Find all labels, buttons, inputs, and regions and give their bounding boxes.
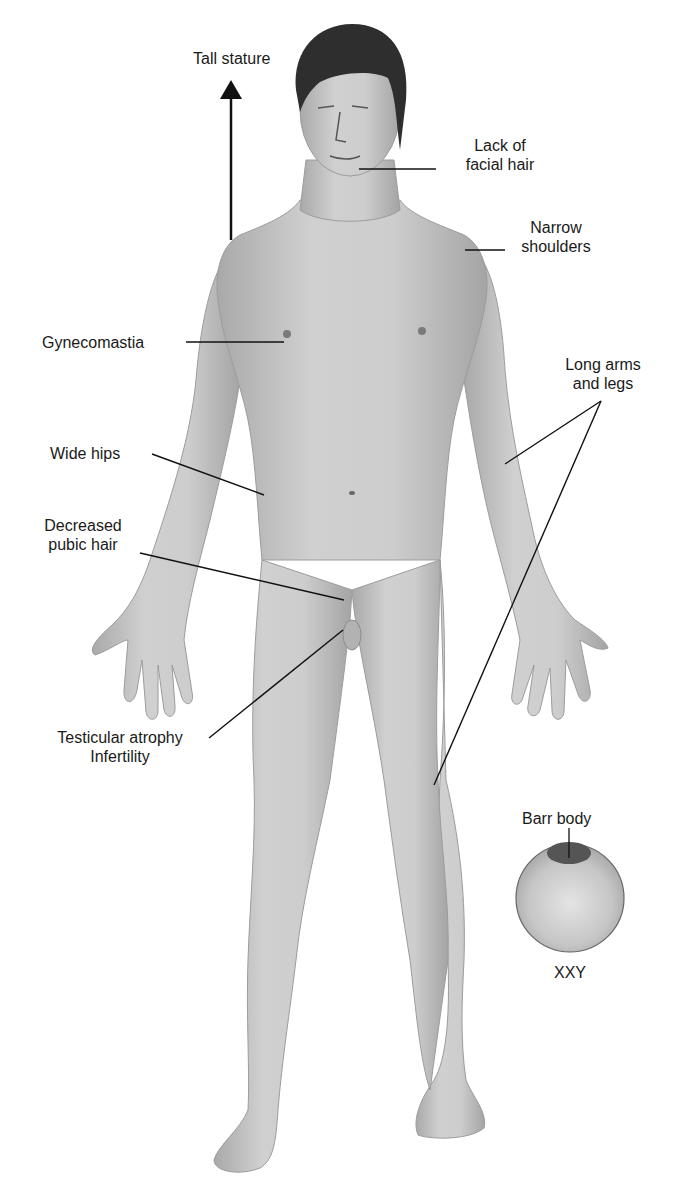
inner-right-leg bbox=[352, 560, 448, 1090]
torso bbox=[217, 200, 487, 560]
label-decreased-pubic-hair: Decreased pubic hair bbox=[28, 516, 138, 554]
label-lack-facial-hair: Lack of facial hair bbox=[450, 136, 550, 174]
label-narrow-shoulders-line2: shoulders bbox=[506, 237, 606, 256]
genitals bbox=[343, 620, 361, 650]
body-illustration bbox=[0, 0, 676, 1181]
label-wide-hips: Wide hips bbox=[50, 444, 120, 463]
label-lack-facial-hair-line2: facial hair bbox=[450, 155, 550, 174]
label-narrow-shoulders: Narrow shoulders bbox=[506, 218, 606, 256]
label-karyotype-xxy: XXY bbox=[530, 963, 610, 982]
label-long-arms-legs-line1: Long arms bbox=[548, 355, 658, 374]
label-pubic-hair-line1: Decreased bbox=[28, 516, 138, 535]
label-pubic-hair-line2: pubic hair bbox=[28, 535, 138, 554]
label-testicular-line2: Infertility bbox=[30, 747, 210, 766]
label-gynecomastia: Gynecomastia bbox=[42, 333, 144, 352]
label-narrow-shoulders-line1: Narrow bbox=[506, 218, 606, 237]
right-arm bbox=[464, 245, 608, 719]
left-arm bbox=[92, 250, 240, 719]
label-long-arms-legs-line2: and legs bbox=[548, 374, 658, 393]
label-tall-stature: Tall stature bbox=[193, 49, 270, 68]
human-figure bbox=[92, 44, 608, 1172]
label-testicular-atrophy: Testicular atrophy Infertility bbox=[30, 728, 210, 766]
label-long-arms-legs: Long arms and legs bbox=[548, 355, 658, 393]
label-barr-body: Barr body bbox=[522, 809, 591, 828]
label-lack-facial-hair-line1: Lack of bbox=[450, 136, 550, 155]
left-nipple bbox=[283, 330, 291, 338]
tall-stature-arrow bbox=[220, 80, 242, 240]
navel bbox=[349, 491, 355, 495]
label-testicular-line1: Testicular atrophy bbox=[30, 728, 210, 747]
klinefelter-diagram: Tall stature Lack of facial hair Narrow … bbox=[0, 0, 676, 1181]
right-nipple bbox=[418, 327, 426, 335]
left-leg bbox=[214, 560, 352, 1172]
xxy-cell bbox=[516, 828, 624, 952]
